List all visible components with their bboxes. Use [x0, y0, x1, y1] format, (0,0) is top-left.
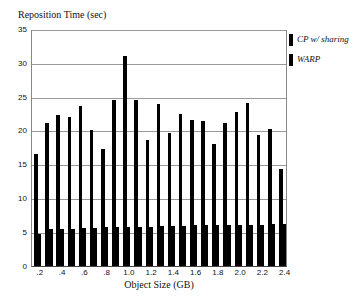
- bar-warp: [127, 227, 131, 266]
- bar-warp: [38, 234, 42, 266]
- y-tick-label: 5: [7, 228, 27, 237]
- x-tick-label: 2.0: [230, 268, 250, 277]
- y-axis-label: Reposition Time (sec): [18, 9, 106, 20]
- bar-warp: [283, 224, 287, 266]
- x-tick-label: 1.0: [119, 268, 139, 277]
- bar-warp: [194, 225, 198, 266]
- gridline: [32, 98, 286, 99]
- bar-warp: [216, 225, 220, 266]
- x-tick-label: 1.2: [141, 268, 161, 277]
- y-tick-label: 30: [7, 59, 27, 68]
- bar-warp: [105, 227, 109, 266]
- bar-warp: [182, 226, 186, 266]
- bar-warp: [49, 229, 53, 266]
- bar-warp: [238, 225, 242, 266]
- bar-warp: [93, 228, 97, 266]
- legend-label-warp: WARP: [297, 54, 320, 64]
- legend-label-cp: CP w/ sharing: [297, 34, 349, 44]
- bar-warp: [205, 225, 209, 266]
- y-tick-label: 10: [7, 194, 27, 203]
- gridline: [32, 30, 286, 31]
- x-axis-label: Object Size (GB): [0, 279, 318, 290]
- bar-warp: [149, 227, 153, 266]
- legend-item-warp: WARP: [287, 54, 364, 68]
- x-tick-label: .6: [74, 268, 94, 277]
- legend-item-cp: CP w/ sharing: [287, 34, 364, 48]
- y-tick-label: 15: [7, 160, 27, 169]
- plot-area: [31, 30, 287, 267]
- bar-warp: [71, 229, 75, 266]
- x-tick-label: 1.6: [186, 268, 206, 277]
- legend-swatch-cp: [289, 34, 293, 46]
- y-tick-label: 0: [7, 262, 27, 271]
- bar-warp: [260, 225, 264, 266]
- bar-warp: [138, 227, 142, 266]
- bar-warp: [82, 228, 86, 266]
- bar-warp: [272, 224, 276, 266]
- bar-warp: [116, 227, 120, 266]
- y-tick-label: 20: [7, 126, 27, 135]
- bar-warp: [227, 225, 231, 266]
- bar-warp: [171, 226, 175, 266]
- x-tick-label: .4: [52, 268, 72, 277]
- x-tick-label: 2.4: [275, 268, 295, 277]
- y-tick-label: 35: [7, 25, 27, 34]
- bar-warp: [249, 225, 253, 266]
- x-tick-label: .8: [97, 268, 117, 277]
- bar-warp: [160, 226, 164, 266]
- x-tick-label: 2.2: [252, 268, 272, 277]
- legend-swatch-warp: [289, 54, 293, 66]
- x-tick-label: .2: [30, 268, 50, 277]
- x-tick-label: 1.4: [163, 268, 183, 277]
- bar-warp: [60, 229, 64, 266]
- y-tick-label: 25: [7, 93, 27, 102]
- x-tick-label: 1.8: [208, 268, 228, 277]
- gridline: [32, 64, 286, 65]
